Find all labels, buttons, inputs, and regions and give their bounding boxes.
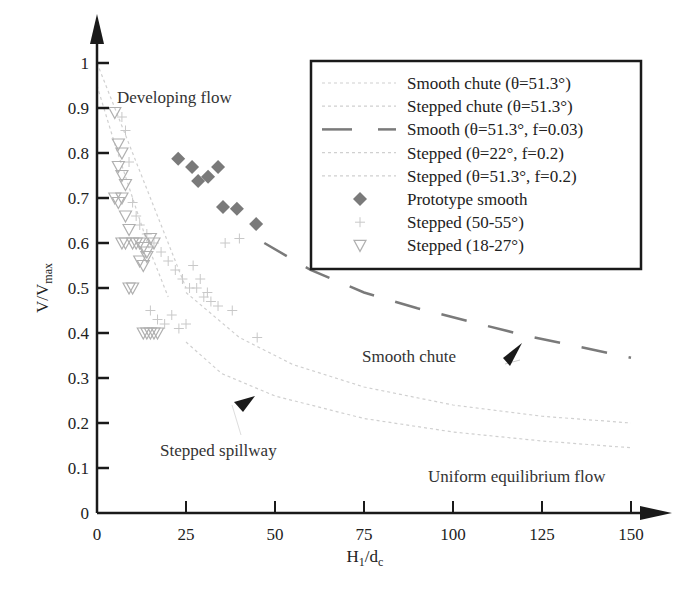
plus-marker-icon [156,247,166,257]
y-tick-label: 0.3 [68,369,89,388]
plus-marker-icon [206,297,216,307]
diamond-marker-icon [249,217,263,231]
diamond-marker-icon [230,202,244,216]
plus-marker-icon [153,315,163,325]
legend-label: Smooth (θ=51.3°, f=0.03) [407,120,583,139]
annotation-smooth-chute: Smooth chute [362,347,456,366]
plus-marker-icon [188,261,198,271]
plus-marker-icon [227,306,237,316]
x-axis-arrow-icon [640,506,672,520]
smooth-chute-arrow-icon [503,343,522,366]
stepped-spillway-arrow-icon [234,396,255,412]
plus-marker-icon [181,319,191,329]
x-tick-label: 75 [356,525,373,544]
triangle-down-marker-icon [119,211,131,222]
y-tick-label: 0.7 [68,189,90,208]
annotation-developing-flow: Developing flow [117,88,232,107]
legend-label: Stepped (18-27°) [407,236,524,255]
triangle-down-marker-icon [123,225,135,236]
y-tick-label: 0 [81,504,90,523]
legend-label: Smooth chute (θ=51.3°) [407,74,571,93]
plus-marker-icon [167,310,177,320]
plus-marker-icon [177,274,187,284]
plus-marker-icon [170,265,180,275]
y-tick-label: 0.2 [68,414,89,433]
plus-marker-icon [174,324,184,334]
plus-marker-icon [252,333,262,343]
y-tick-label: 0.8 [68,144,89,163]
legend: Smooth chute (θ=51.3°)Stepped chute (θ=5… [311,61,641,269]
legend-label: Prototype smooth [407,190,528,209]
x-axis-label: H1/dc [347,547,384,569]
plus-marker-icon [145,306,155,316]
scatter-markers [109,108,263,343]
x-tick-label: 50 [267,525,284,544]
diamond-marker-icon [185,160,199,174]
x-tick-label: 100 [440,525,466,544]
series-line [97,86,168,298]
x-tick-label: 25 [178,525,195,544]
diamond-marker-icon [171,152,185,166]
legend-label: Stepped (θ=22°, f=0.2) [407,144,564,163]
x-tick-label: 125 [529,525,555,544]
plus-marker-icon [124,157,134,167]
plus-marker-icon [192,283,202,293]
chart: 00.10.20.30.40.50.60.70.80.91 0255075100… [0,0,694,593]
y-axis-arrow-icon [90,14,104,44]
plus-marker-icon [195,274,205,284]
y-tick-label: 0.9 [68,99,89,118]
y-tick-label: 0.1 [68,459,89,478]
y-tick-label: 0.5 [68,279,89,298]
diamond-marker-icon [211,160,225,174]
x-tick-label: 150 [618,525,644,544]
x-axis: 0255075100125150 [93,501,672,544]
y-tick-label: 0.4 [68,324,90,343]
x-tick-label: 0 [93,525,102,544]
plus-marker-icon [234,234,244,244]
annotation-uniform-equilibrium-flow: Uniform equilibrium flow [428,467,606,486]
plus-marker-icon [220,238,230,248]
y-axis: 00.10.20.30.40.50.60.70.80.91 [68,14,109,523]
legend-label: Stepped (θ=51.3°, f=0.2) [407,167,577,186]
plus-marker-icon [128,198,138,208]
plus-marker-icon [213,301,223,311]
y-axis-label: V/Vmax [33,263,55,313]
plus-marker-icon [117,112,127,122]
annotation-stepped-spillway: Stepped spillway [160,441,277,460]
plus-marker-icon [163,256,173,266]
legend-label: Stepped (50-55°) [407,213,524,232]
y-tick-label: 1 [81,54,90,73]
y-tick-label: 0.6 [68,234,89,253]
diamond-marker-icon [216,200,230,214]
legend-label: Stepped chute (θ=51.3°) [407,97,573,116]
